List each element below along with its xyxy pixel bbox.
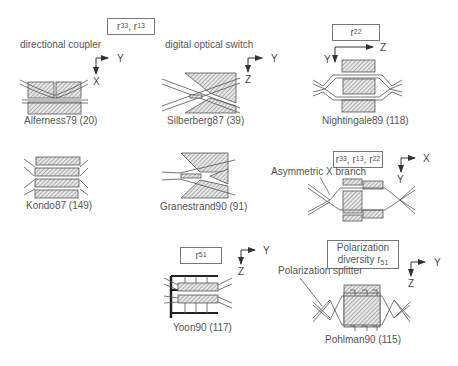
axes-icon: Y Z xyxy=(238,245,270,277)
label-polarization-splitter: Polarization splitter xyxy=(278,266,362,276)
label-asymmetric-x-branch: Asymmetric X branch xyxy=(271,167,366,177)
caption-silberberg: Silberberg87 (39) xyxy=(167,116,244,126)
label-digital-optical-switch: digital optical switch xyxy=(165,40,253,50)
coefficient-box-r33-r13: r33, r13 xyxy=(107,18,155,35)
coefficient-box-r51: r51 xyxy=(180,247,222,264)
axes-icon: Y Z xyxy=(408,257,441,289)
coef-sub: 13 xyxy=(356,155,364,163)
granestrand-figure xyxy=(162,153,235,198)
coef-sub: 22 xyxy=(354,28,362,36)
caption-nightingale: Nightingale89 (118) xyxy=(322,116,409,126)
device-diagram: Y X Y Z Z Y xyxy=(0,0,458,366)
caption-pohlman: Pohlman90 (115) xyxy=(325,335,401,345)
caption-yoon: Yoon90 (117) xyxy=(173,323,232,333)
svg-text:X: X xyxy=(93,76,100,87)
asymmetric-x-branch-figure xyxy=(308,179,415,221)
coef-sub: 51 xyxy=(381,259,389,266)
svg-text:Z: Z xyxy=(238,266,244,277)
svg-text:Z: Z xyxy=(380,42,386,53)
coef-sub: 13 xyxy=(137,22,145,30)
coefficient-box-r22: r22 xyxy=(332,24,380,41)
pohlman-figure xyxy=(300,278,410,331)
svg-text:Z: Z xyxy=(245,74,251,85)
kondo-figure xyxy=(24,157,88,198)
svg-text:Y: Y xyxy=(324,54,331,65)
svg-text:Y: Y xyxy=(263,245,270,256)
axes-icon: Y Z xyxy=(245,53,278,85)
label-directional-coupler: directional coupler xyxy=(20,40,101,50)
silberberg-switch-figure xyxy=(162,73,240,113)
coef-sub: 33 xyxy=(120,22,128,30)
caption-alferness: Alferness79 (20) xyxy=(24,116,97,126)
caption-granestrand: Granestrand90 (91) xyxy=(160,202,247,212)
box-line-2-text: diversity r xyxy=(338,254,381,265)
svg-text:Y: Y xyxy=(434,257,441,268)
nightingale-figure xyxy=(313,60,402,112)
svg-text:X: X xyxy=(423,153,430,164)
svg-text:Y: Y xyxy=(271,53,278,64)
svg-text:Y: Y xyxy=(117,53,124,64)
box-line-1: Polarization xyxy=(337,242,389,254)
coef-sub: 51 xyxy=(199,251,207,259)
alferness-coupler-figure xyxy=(20,80,88,114)
coef-sub: 33 xyxy=(339,155,347,163)
axes-icon: Y X xyxy=(93,53,124,87)
yoon-figure xyxy=(164,276,232,318)
coef-sub: 22 xyxy=(372,155,380,163)
asym-x-leader-line xyxy=(320,177,330,195)
axes-icon: X Y xyxy=(397,153,430,185)
caption-kondo: Kondo87 (149) xyxy=(26,201,92,211)
svg-text:Y: Y xyxy=(397,174,404,185)
svg-text:Z: Z xyxy=(408,278,414,289)
